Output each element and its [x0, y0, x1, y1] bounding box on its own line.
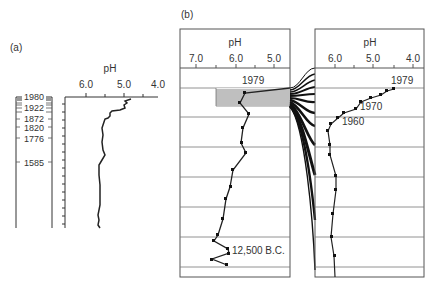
tick-label-4: 4.0: [406, 53, 420, 64]
annotation-1979-left: 1979: [242, 75, 265, 86]
panel-a-date-scale: 1980 1922 1872 1820 1776 1585: [16, 92, 52, 228]
date-label-1585: 1585: [24, 158, 44, 168]
tick-label-5: 5.0: [267, 53, 281, 64]
annotation-1970: 1970: [360, 101, 383, 112]
tick-label-5: 5.0: [366, 53, 380, 64]
panel-a-ph-curve: [98, 99, 131, 228]
tick-label-7: 7.0: [189, 53, 203, 64]
panel-b-left-gridlines: [180, 88, 290, 267]
recent-band: [216, 88, 290, 106]
annotation-1979-right: 1979: [391, 75, 414, 86]
tick-label-6: 6.0: [229, 53, 243, 64]
annotation-12500bc: 12,500 B.C.: [232, 245, 285, 256]
date-label-1776: 1776: [24, 134, 44, 144]
panel-b-label: (b): [181, 9, 193, 20]
annotation-1960: 1960: [342, 116, 365, 127]
panel-b-right-data-points: [326, 87, 395, 257]
expansion-connector-fan: [290, 68, 315, 270]
panel-a-label: (a): [10, 42, 22, 53]
date-label-1820: 1820: [24, 123, 44, 133]
panel-a: (a) pH 6.0 5.0 4.0: [10, 42, 165, 228]
panel-b-left-ph-curve: [212, 88, 290, 265]
panel-a-axis-title: pH: [104, 63, 117, 74]
tick-label-6: 6.0: [328, 53, 342, 64]
panel-a-tick-label-6: 6.0: [79, 79, 93, 90]
panel-b-right: pH 6.0 5.0 4.0 1979 1970 1960: [315, 29, 424, 277]
panel-b-right-axis-title: pH: [364, 37, 377, 48]
panel-a-tick-label-5: 5.0: [117, 79, 131, 90]
date-label-1922: 1922: [24, 103, 44, 113]
date-label-1980: 1980: [24, 92, 44, 102]
panel-a-tick-label-4: 4.0: [151, 79, 165, 90]
panel-b-left-axis-title: pH: [229, 37, 242, 48]
panel-b-left: (b) pH 7.0 6.0 5.0: [180, 9, 290, 277]
ph-figure: (a) pH 6.0 5.0 4.0: [0, 0, 436, 291]
